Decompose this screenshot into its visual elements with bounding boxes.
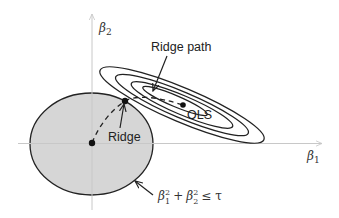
constraint-b1: β [157, 189, 165, 203]
constraint-b2: β [185, 189, 193, 203]
constraint-label: β21+β22≤ τ [157, 188, 222, 206]
y-axis-label-sub: 2 [106, 27, 112, 37]
constraint-rel: ≤ τ [201, 189, 222, 203]
ridge-path-arrow [153, 56, 167, 91]
ridge-diagram: Ridge path OLS Ridge β2 β1 β21+β22≤ τ [0, 0, 339, 218]
constraint-b2-sub: 2 [193, 197, 198, 206]
x-axis-label-beta: β [306, 149, 314, 163]
x-axis-label-sub: 1 [314, 155, 320, 165]
ridge-point [122, 98, 128, 104]
constraint-b2-sup: 2 [193, 188, 198, 197]
constraint-plus: + [173, 189, 183, 203]
x-axis-label: β1 [306, 149, 320, 165]
ridge-path-label: Ridge path [151, 40, 212, 54]
origin-point [89, 140, 95, 146]
ols-point [180, 102, 186, 108]
y-axis-label-beta: β [98, 21, 106, 35]
constraint-b1-sub: 1 [165, 197, 170, 206]
constraint-arrow [135, 181, 153, 195]
constraint-b1-sup: 2 [165, 188, 170, 197]
ols-label: OLS [187, 108, 212, 122]
y-axis-label: β2 [98, 21, 112, 37]
ridge-label: Ridge [108, 130, 141, 144]
